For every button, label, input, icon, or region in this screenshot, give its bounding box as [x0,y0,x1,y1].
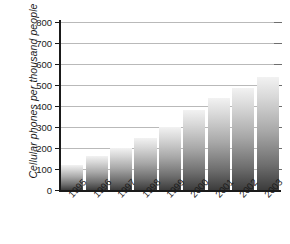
plot-area: 0100200300400500600700800 [60,22,280,190]
y-axis-tick-label: 300 [36,122,52,133]
bar-2003 [257,77,279,190]
y-axis-tick-label: 700 [36,38,52,49]
bar-2002 [232,88,254,190]
y-axis-tick-label: 600 [36,59,52,70]
bars-group [60,22,280,190]
y-axis-tick-label: 100 [36,164,52,175]
y-axis-line [59,20,61,192]
y-axis-tick-label: 400 [36,101,52,112]
bar-chart: Cellular phones per thousand people 0100… [0,0,290,244]
y-axis-tick-label: 500 [36,80,52,91]
y-axis-tick-label: 200 [36,143,52,154]
x-axis-labels-group: 199519961997199819992000200120022003 [60,192,284,242]
y-axis-tick-label: 800 [36,17,52,28]
y-axis-title: Cellular phones per thousand people [27,0,39,186]
y-axis-tick-label: 0 [47,185,52,196]
